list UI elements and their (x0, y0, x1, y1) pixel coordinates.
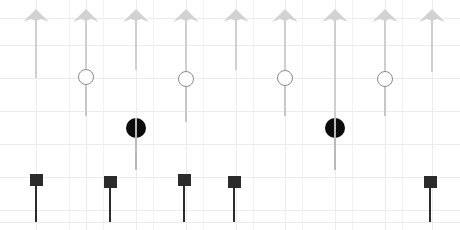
stem-line (233, 182, 235, 222)
open-circle-marker (78, 69, 94, 85)
open-circle-marker (377, 71, 393, 87)
stem-line (334, 20, 336, 125)
gridline-vertical (302, 0, 303, 230)
stem-line (35, 20, 37, 78)
square-marker (178, 174, 191, 186)
gridline-horizontal (0, 144, 460, 145)
stem-line (235, 20, 237, 70)
gridline-vertical (103, 0, 104, 230)
stem-line (135, 20, 137, 70)
gridline-vertical (253, 0, 254, 230)
gridline-horizontal (0, 111, 460, 112)
gridline-vertical (153, 0, 154, 230)
stem-line (429, 182, 431, 222)
square-marker (104, 176, 117, 188)
gridline-horizontal (0, 222, 460, 223)
gridline-vertical (352, 0, 353, 230)
square-marker (424, 176, 437, 188)
open-circle-marker (277, 70, 293, 86)
gridline-vertical (402, 0, 403, 230)
stem-line-overlay (334, 118, 336, 138)
stem-line (109, 182, 111, 222)
stem-line-overlay (135, 118, 137, 138)
stem-line (183, 180, 185, 222)
gridline-horizontal (0, 210, 460, 211)
gridline-vertical (69, 0, 70, 230)
open-circle-marker (178, 71, 194, 87)
chart-canvas (0, 0, 460, 230)
gridline-horizontal (0, 45, 460, 46)
square-marker (30, 174, 43, 186)
plot-area (0, 0, 460, 230)
gridline-vertical (203, 0, 204, 230)
stem-line (35, 180, 37, 222)
square-marker (228, 176, 241, 188)
stem-line (431, 20, 433, 72)
